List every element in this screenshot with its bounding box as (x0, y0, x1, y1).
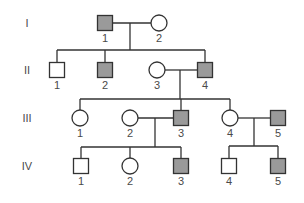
individual-II-2: 2 (98, 63, 113, 92)
unaffected-male-square-icon (50, 63, 65, 78)
connector-lines (57, 23, 278, 158)
unaffected-female-circle-icon (72, 110, 88, 126)
affected-male-square-icon (98, 63, 113, 78)
individual-label: 3 (178, 127, 184, 139)
individual-III-5: 5 (271, 111, 286, 140)
individual-label: 3 (178, 175, 184, 187)
individual-III-3: 3 (174, 111, 189, 140)
individual-label: 5 (275, 175, 281, 187)
individual-label: 2 (127, 175, 133, 187)
individual-label: 4 (227, 127, 233, 139)
individual-IV-1: 1 (74, 159, 89, 188)
individuals: 1212341234512345 (50, 15, 286, 187)
individual-label: 2 (127, 127, 133, 139)
individual-I-2: 2 (151, 15, 167, 44)
unaffected-female-circle-icon (122, 110, 138, 126)
affected-male-square-icon (271, 159, 286, 174)
pedigree-chart: IIIIIIIV 1212341234512345 (0, 0, 304, 203)
individual-label: 2 (156, 32, 162, 44)
unaffected-female-circle-icon (122, 158, 138, 174)
individual-III-4: 4 (222, 110, 238, 139)
individual-label: 1 (77, 127, 83, 139)
individual-IV-4: 4 (222, 159, 237, 188)
individual-III-2: 2 (122, 110, 138, 139)
individual-label: 4 (202, 79, 208, 91)
unaffected-female-circle-icon (149, 62, 165, 78)
individual-label: 5 (275, 127, 281, 139)
individual-label: 3 (154, 79, 160, 91)
individual-label: 1 (54, 79, 60, 91)
individual-I-1: 1 (98, 16, 113, 45)
generation-labels: IIIIIIIV (22, 17, 33, 172)
generation-label-II: II (24, 64, 30, 76)
unaffected-male-square-icon (74, 159, 89, 174)
affected-male-square-icon (198, 63, 213, 78)
individual-II-3: 3 (149, 62, 165, 91)
affected-male-square-icon (271, 111, 286, 126)
unaffected-female-circle-icon (222, 110, 238, 126)
individual-label: 4 (226, 175, 232, 187)
generation-label-I: I (25, 17, 28, 29)
individual-IV-5: 5 (271, 159, 286, 188)
individual-label: 1 (102, 32, 108, 44)
individual-III-1: 1 (72, 110, 88, 139)
affected-male-square-icon (174, 159, 189, 174)
individual-II-4: 4 (198, 63, 213, 92)
generation-label-IV: IV (22, 160, 33, 172)
unaffected-female-circle-icon (151, 15, 167, 31)
individual-IV-2: 2 (122, 158, 138, 187)
affected-male-square-icon (98, 16, 113, 31)
individual-II-1: 1 (50, 63, 65, 92)
individual-label: 2 (102, 79, 108, 91)
individual-label: 1 (78, 175, 84, 187)
individual-IV-3: 3 (174, 159, 189, 188)
generation-label-III: III (22, 112, 31, 124)
affected-male-square-icon (174, 111, 189, 126)
unaffected-male-square-icon (222, 159, 237, 174)
